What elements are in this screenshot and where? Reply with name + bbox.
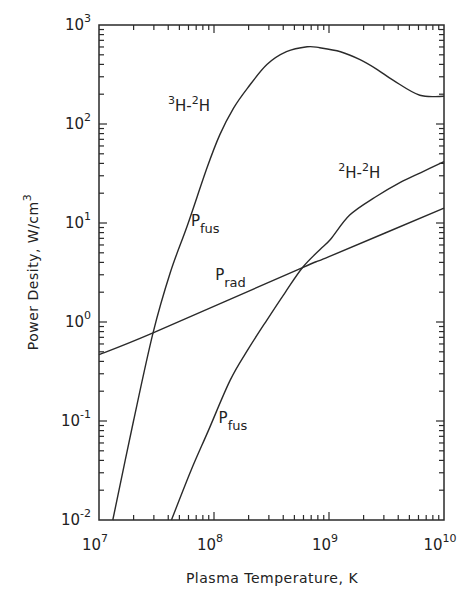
y-axis-label-sup: 3 [21, 194, 34, 202]
y-tick-label: 102 [65, 111, 91, 133]
ann-sup: 2 [192, 94, 199, 107]
tick-base: 10 [423, 536, 442, 554]
tick-base: 10 [197, 536, 216, 554]
tick-exp: 9 [331, 532, 338, 545]
annotations: 3H-2HPfusPrad2H-2HPfus [168, 94, 380, 433]
ann-sup: 2 [338, 161, 345, 174]
ann-main: P [219, 409, 228, 427]
tick-base: 10 [65, 313, 84, 331]
ann-sub: rad [224, 275, 246, 290]
y-axis-label-text: Power Desity, W/cm [25, 201, 41, 350]
plot-frame [99, 25, 444, 520]
ann-main: P [191, 212, 200, 230]
ticks [99, 25, 444, 520]
curves [99, 47, 444, 520]
tick-exp: 10 [443, 532, 457, 545]
tick-exp: 7 [101, 532, 108, 545]
tick-exp: 1 [84, 210, 91, 223]
annotation-dt-pfus: Pfus [191, 212, 220, 236]
ann-text: H- [175, 97, 192, 115]
tick-base: 10 [65, 214, 84, 232]
tick-base: 10 [82, 536, 101, 554]
tick-exp: 0 [84, 309, 91, 322]
tick-exp: 2 [84, 111, 91, 124]
annotation-dd-pfus: Pfus [219, 409, 248, 433]
axes-frame [99, 25, 444, 520]
series-prad [99, 208, 444, 355]
tick-base: 10 [65, 16, 84, 34]
tick-base: 10 [61, 412, 80, 430]
ann-main: P [215, 266, 224, 284]
x-tick-label: 1010 [423, 532, 456, 554]
x-tick-label: 108 [197, 532, 223, 554]
series-2h-2h-pfus [171, 162, 444, 520]
x-tick-label: 109 [312, 532, 338, 554]
ann-text: H- [345, 164, 362, 182]
ann-sub: fus [200, 221, 220, 236]
y-tick-label: 103 [65, 12, 91, 34]
y-tick-label: 100 [65, 309, 91, 331]
annotation-prad: Prad [215, 266, 246, 290]
tick-exp: -2 [80, 507, 91, 520]
ann-sup: 2 [362, 161, 369, 174]
ann-sup: 3 [168, 94, 175, 107]
annotation-dt-label: 3H-2H [168, 94, 210, 115]
tick-base: 10 [65, 115, 84, 133]
series-3h-2h-pfus [113, 47, 444, 520]
ann-sub: fus [228, 418, 248, 433]
tick-base: 10 [61, 511, 80, 529]
tick-exp: 8 [216, 532, 223, 545]
tick-exp: -1 [80, 408, 91, 421]
annotation-dd-label: 2H-2H [338, 161, 380, 182]
chart-svg: 107108109101010-210-1100101102103 3H-2HP… [0, 0, 473, 596]
y-tick-label: 10-2 [61, 507, 91, 529]
tick-base: 10 [312, 536, 331, 554]
ann-text: H [199, 97, 210, 115]
y-axis-label: Power Desity, W/cm3 [21, 194, 41, 350]
tick-labels: 107108109101010-210-1100101102103 [61, 12, 457, 554]
x-axis-label: Plasma Temperature, K [186, 570, 358, 586]
x-tick-label: 107 [82, 532, 108, 554]
tick-exp: 3 [84, 12, 91, 25]
y-tick-label: 101 [65, 210, 91, 232]
y-tick-label: 10-1 [61, 408, 91, 430]
ann-text: H [369, 164, 380, 182]
